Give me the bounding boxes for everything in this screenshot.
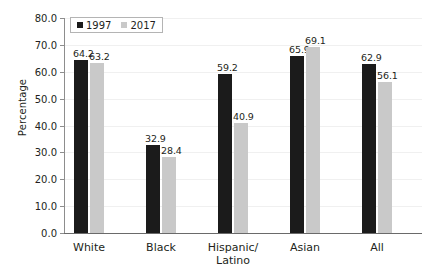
y-axis-tick-mark — [60, 18, 64, 19]
legend-swatch-icon-2017 — [121, 22, 127, 28]
bar-value-label: 59.2 — [217, 62, 238, 73]
y-axis-tick-mark — [60, 233, 64, 234]
bar-value-label: 69.1 — [305, 35, 326, 46]
y-axis-tick-mark — [60, 179, 64, 180]
legend-label-2017: 2017 — [130, 20, 155, 31]
bar-value-label: 32.9 — [145, 133, 166, 144]
legend-label-1997: 1997 — [86, 20, 111, 31]
bar-2017-Hispanic--Latino — [234, 123, 248, 233]
y-axis-tick-label: 80.0 — [35, 13, 57, 24]
bar-2017-White — [90, 63, 104, 233]
bar-1997-Hispanic--Latino — [218, 74, 232, 233]
legend-item-1997: 1997 — [77, 20, 111, 31]
legend-item-2017: 2017 — [121, 20, 155, 31]
y-axis-tick-label: 50.0 — [35, 93, 57, 104]
x-axis-label-All: All — [332, 241, 422, 254]
y-axis-tick-mark — [60, 72, 64, 73]
chart-legend: 1997 2017 — [70, 17, 163, 33]
bar-value-label: 40.9 — [233, 111, 254, 122]
y-axis-tick-label: 20.0 — [35, 174, 57, 185]
bar-2017-Black — [162, 157, 176, 233]
y-axis-tick-label: 40.0 — [35, 120, 57, 131]
y-axis-tick-mark — [60, 99, 64, 100]
y-axis-tick-mark — [60, 126, 64, 127]
plot-area: 0.010.020.030.040.050.060.070.080.0 64.2… — [64, 18, 422, 233]
bar-value-label: 56.1 — [377, 70, 398, 81]
bar-1997-Black — [146, 145, 160, 233]
y-axis-tick-mark — [60, 206, 64, 207]
bar-1997-Asian — [290, 56, 304, 233]
bar-value-label: 28.4 — [161, 145, 182, 156]
bar-2017-All — [378, 82, 392, 233]
legend-swatch-icon-1997 — [77, 22, 83, 28]
gridline — [65, 45, 422, 46]
bar-chart: Percentage 0.010.020.030.040.050.060.070… — [0, 0, 432, 277]
y-axis-tick-mark — [60, 152, 64, 153]
y-axis-tick-label: 60.0 — [35, 66, 57, 77]
y-axis-tick-label: 10.0 — [35, 201, 57, 212]
bar-value-label: 62.9 — [361, 52, 382, 63]
bar-1997-All — [362, 64, 376, 233]
y-axis-title: Percentage — [17, 48, 28, 168]
y-axis-tick-label: 0.0 — [41, 228, 57, 239]
y-axis-tick-label: 30.0 — [35, 147, 57, 158]
bar-value-label: 63.2 — [89, 51, 110, 62]
bar-1997-White — [74, 60, 88, 233]
x-axis-line — [64, 233, 422, 234]
y-axis-tick-label: 70.0 — [35, 39, 57, 50]
bar-2017-Asian — [306, 47, 320, 233]
y-axis-tick-mark — [60, 45, 64, 46]
